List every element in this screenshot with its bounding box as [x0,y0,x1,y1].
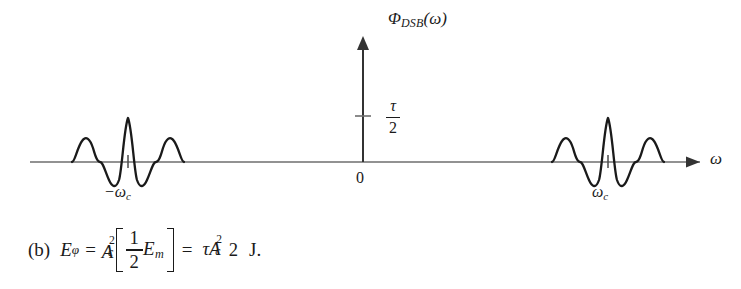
equation-lhs: Eφ [60,239,79,261]
one-half-fraction: 1 2 [126,228,143,272]
result-amplitude-subscript: c [215,245,220,257]
left-square-bracket [116,228,123,272]
result-numerator: τ A 2 c [199,239,225,260]
origin-label: 0 [356,170,364,186]
fraction-bar [386,117,400,118]
negative-carrier-pulse-curve [72,118,184,186]
message-energy-subscript: m [155,247,164,261]
energy-equation: (b) Eφ = A 2 c 1 2 Em = τ A 2 c [28,228,261,272]
equals-sign-2: = [182,239,193,261]
message-energy-symbol: E [143,238,155,259]
equals-sign-1: = [85,239,96,261]
result-fraction: τ A 2 c 2 [199,239,243,260]
neg-omega-subscript: c [126,190,131,202]
phi-subscript: φ [72,242,79,258]
right-square-bracket [167,228,174,272]
energy-unit: J. [249,239,261,261]
equation-tag: (b) [28,239,50,261]
carrier-amplitude-subscript: c [108,246,113,260]
tau-numerator: τ [386,98,400,116]
negative-carrier-frequency-label: −ωc [104,184,131,202]
two-denominator: 2 [126,251,143,272]
amplitude-value-label: τ 2 [386,98,400,137]
y-axis-arrowhead [357,36,369,50]
energy-symbol: E [60,239,72,261]
y-axis-dsb-subscript: DSB [401,16,424,30]
positive-carrier-frequency-label: ωc [592,184,608,202]
pos-omega-subscript: c [603,190,608,202]
y-axis-phi-symbol: Φ [388,9,401,28]
result-denominator: 2 [225,239,242,260]
message-energy-term: Em [143,238,164,262]
x-axis-arrowhead [686,157,700,168]
y-axis-omega-argument: (ω) [424,9,447,28]
x-axis-label: ω [710,150,722,167]
positive-carrier-pulse-curve [552,118,664,186]
carrier-amplitude-squared: A 2 c [102,241,114,260]
one-numerator: 1 [126,228,143,249]
two-denominator: 2 [386,119,400,137]
y-axis-label: ΦDSB(ω) [388,10,447,29]
pos-omega-symbol: ω [592,183,603,200]
bracketed-expression: 1 2 Em [116,228,174,272]
neg-omega-symbol: −ω [104,183,126,200]
